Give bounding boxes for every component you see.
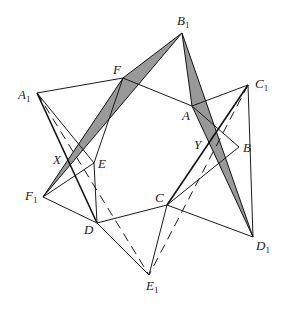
- shaded-triangle-b1-f-f1: [43, 33, 182, 197]
- segment-f-a: [123, 78, 192, 106]
- label-Y: Y: [194, 137, 203, 152]
- segment-a1-e: [37, 93, 94, 163]
- segment-d-e: [94, 163, 97, 223]
- label-D: D: [83, 222, 94, 237]
- diagram-canvas: A1 B1 C1 D1 E1 F1 A B C D E F X Y: [0, 0, 284, 319]
- label-A: A: [181, 108, 190, 123]
- segment-c1-d1: [248, 85, 253, 237]
- label-A1: A1: [17, 87, 30, 104]
- segment-e1-c: [149, 205, 167, 275]
- label-C: C: [155, 190, 164, 205]
- segment-f1-d: [43, 197, 97, 223]
- segment-e1-d: [97, 223, 149, 275]
- segment-c-d: [97, 205, 167, 223]
- label-F1: F1: [24, 188, 37, 205]
- label-B1: B1: [177, 13, 189, 30]
- segment-f1-e: [43, 163, 94, 197]
- label-D1: D1: [255, 238, 270, 255]
- segment-a1-d: [37, 93, 97, 223]
- geometry-diagram: A1 B1 C1 D1 E1 F1 A B C D E F X Y: [0, 0, 284, 319]
- label-F: F: [112, 62, 122, 77]
- point-labels: A1 B1 C1 D1 E1 F1 A B C D E F X Y: [17, 13, 270, 295]
- solid-lines: [37, 78, 253, 275]
- shaded-triangle-b1-a-d1: [182, 33, 253, 237]
- label-C1: C1: [255, 76, 268, 93]
- shaded-regions: [43, 33, 253, 237]
- segment-a1-f: [37, 78, 123, 93]
- label-E: E: [97, 156, 106, 171]
- label-E1: E1: [145, 278, 158, 295]
- label-B: B: [243, 140, 251, 155]
- label-X: X: [52, 152, 62, 167]
